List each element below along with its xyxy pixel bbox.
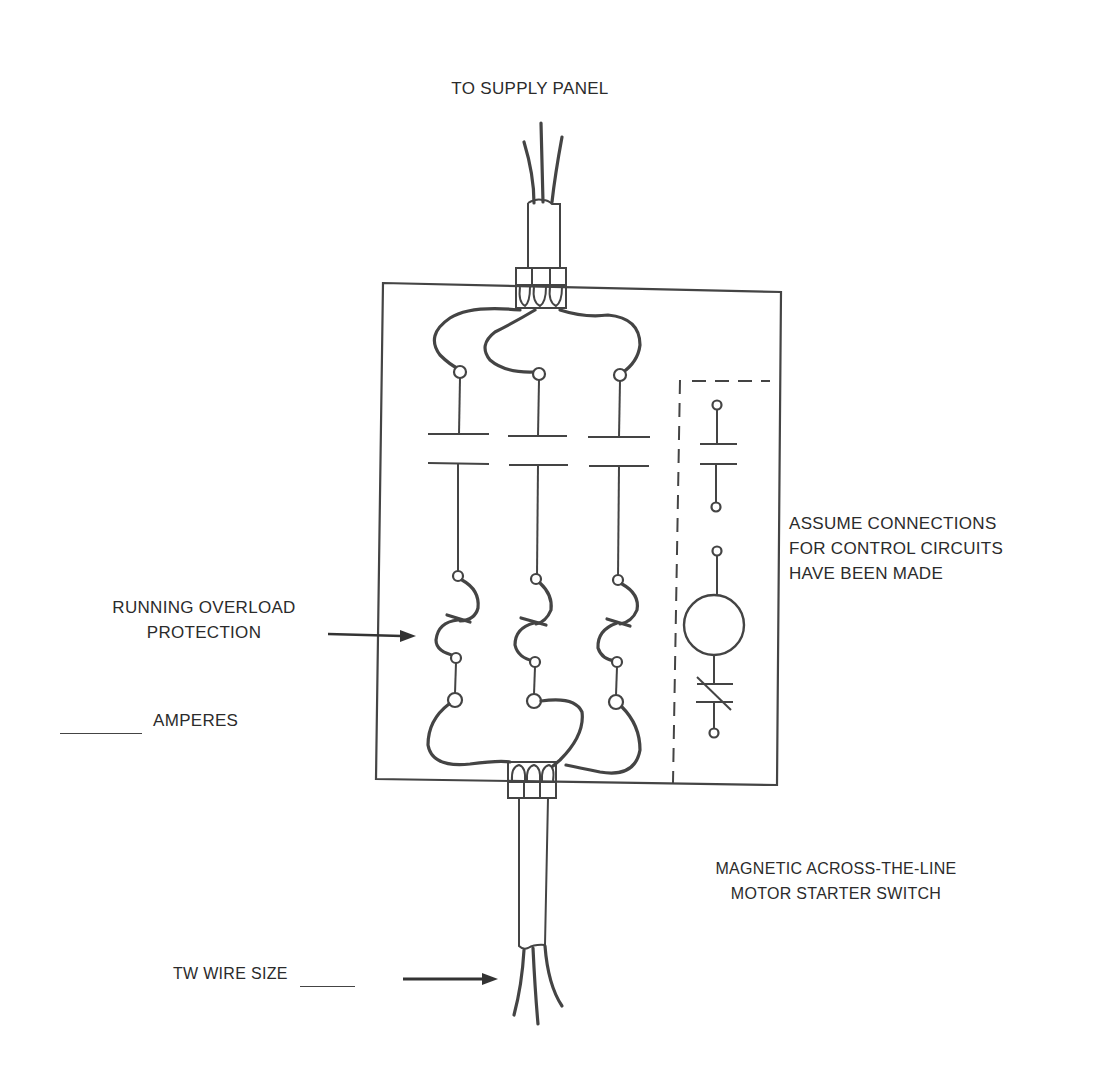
main-contacts: [428, 366, 650, 578]
wire-size-label: TW WIRE SIZE: [173, 965, 288, 982]
control-note-line-2: FOR CONTROL CIRCUITS: [789, 536, 1003, 561]
amperes-blank[interactable]: [60, 713, 142, 734]
device-name-line-2: MOTOR STARTER SWITCH: [666, 881, 1006, 906]
amperes-label: AMPERES: [153, 711, 238, 730]
wire-size-field: TW WIRE SIZE: [173, 961, 355, 987]
device-name-line-1: MAGNETIC ACROSS-THE-LINE: [666, 856, 1006, 881]
overload-label: RUNNING OVERLOAD PROTECTION: [84, 595, 324, 645]
control-circuit: [684, 401, 744, 738]
overload-heaters: [436, 571, 637, 709]
enclosure: [376, 283, 781, 785]
control-note-line-3: HAVE BEEN MADE: [789, 561, 1003, 586]
overload-arrow: [328, 630, 416, 642]
control-note: ASSUME CONNECTIONS FOR CONTROL CIRCUITS …: [789, 511, 1003, 586]
line-wires: [434, 309, 640, 373]
supply-cable: [524, 123, 562, 268]
overload-label-line-1: RUNNING OVERLOAD: [84, 595, 324, 620]
control-note-line-1: ASSUME CONNECTIONS: [789, 511, 1003, 536]
overload-label-line-2: PROTECTION: [84, 620, 324, 645]
device-name-label: MAGNETIC ACROSS-THE-LINE MOTOR STARTER S…: [666, 856, 1006, 906]
amperes-field: AMPERES: [60, 708, 238, 734]
control-circuit-boundary: [673, 380, 770, 783]
wire-size-arrow: [403, 973, 498, 985]
supply-label: TO SUPPLY PANEL: [425, 76, 635, 101]
wire-size-blank[interactable]: [300, 968, 355, 987]
motor-cable: [514, 798, 562, 1024]
